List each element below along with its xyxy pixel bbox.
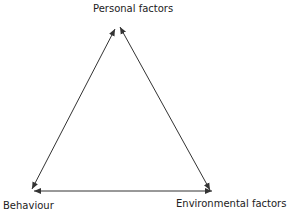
node-environmental-factors: Environmental factors — [176, 198, 286, 209]
edge-personal-behaviour — [32, 29, 115, 189]
node-personal-factors: Personal factors — [93, 3, 173, 14]
edge-personal-environmental — [120, 27, 210, 190]
triangle-diagram — [0, 0, 287, 216]
node-behaviour: Behaviour — [3, 200, 54, 211]
